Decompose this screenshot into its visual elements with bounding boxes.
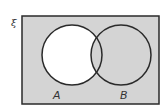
set-b-label: B [120, 89, 128, 102]
set-a-label: A [52, 89, 61, 102]
universal-set-symbol: ξ [11, 17, 17, 28]
venn-diagram: ξ A B [0, 0, 161, 111]
